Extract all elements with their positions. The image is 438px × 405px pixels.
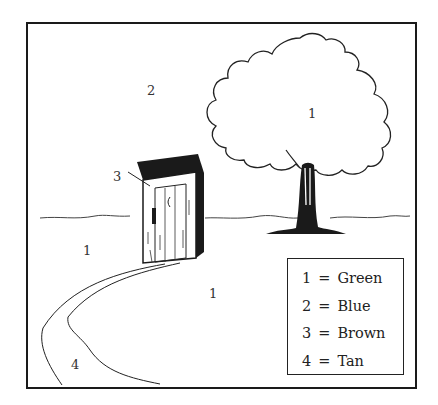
- region-number-sky: 2: [147, 84, 155, 97]
- region-number-path: 4: [71, 358, 79, 371]
- color-legend: 1=Green 2=Blue 3=Brown 4=Tan: [287, 258, 404, 375]
- outhouse: [128, 154, 204, 263]
- horizon-line-right: [330, 216, 410, 218]
- region-number-grass-left: 1: [83, 244, 91, 257]
- region-number-outhouse: 3: [113, 170, 121, 183]
- tree-canopy: [207, 34, 391, 176]
- legend-row-tan: 4=Tan: [302, 348, 403, 376]
- horizon-line-middle: [205, 216, 298, 219]
- legend-row-blue: 2=Blue: [302, 293, 403, 321]
- path-outer-edge: [42, 264, 165, 385]
- path-inner-edge: [68, 263, 180, 384]
- legend-row-green: 1=Green: [302, 265, 403, 293]
- region-number-tree: 1: [308, 107, 316, 120]
- horizon-line-left: [40, 215, 130, 218]
- region-number-grass-right: 1: [209, 287, 217, 300]
- legend-row-brown: 3=Brown: [302, 320, 403, 348]
